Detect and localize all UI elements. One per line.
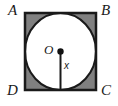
vertex-label-c: C <box>101 83 111 98</box>
center-label-o: O <box>44 43 53 56</box>
radius-label-x: x <box>64 61 69 71</box>
vertex-label-b: B <box>101 3 110 18</box>
geometry-figure: A B D C O x <box>0 0 118 106</box>
vertex-label-a: A <box>8 3 17 18</box>
vertex-label-d: D <box>7 83 18 98</box>
center-point-dot <box>57 48 63 54</box>
